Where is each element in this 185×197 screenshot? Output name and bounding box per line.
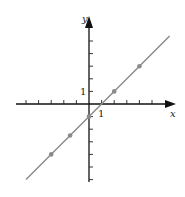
- coordinate-plane: y x 1 1: [0, 0, 185, 197]
- x-tick-label-1: 1: [98, 108, 104, 119]
- y-axis-label: y: [81, 13, 88, 24]
- axes: [16, 16, 176, 182]
- chart-canvas: y x 1 1: [0, 0, 185, 197]
- x-axis-label: x: [170, 108, 176, 119]
- data-point: [49, 152, 54, 157]
- x-axis-arrow-icon: [165, 100, 176, 108]
- data-point: [137, 64, 142, 69]
- data-point: [87, 114, 92, 119]
- data-point: [68, 133, 73, 138]
- data-point: [112, 89, 117, 94]
- y-tick-label-1: 1: [80, 86, 86, 97]
